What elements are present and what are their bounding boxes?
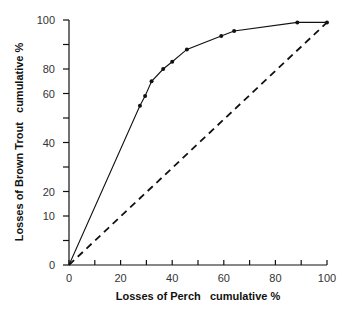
y-tick-label: 40 [43,137,55,149]
data-point-marker [138,104,142,108]
y-axis-ticks: 01020406080100 [37,14,69,271]
data-point-marker [232,29,236,33]
y-tick-label: 0 [49,259,55,271]
data-point-marker [219,34,223,38]
data-point-marker [170,60,174,64]
data-point-marker [161,67,165,71]
data-point-marker [185,47,189,51]
y-tick-label: 80 [43,63,55,75]
data-point-marker [150,79,154,83]
plot-area [69,20,329,265]
x-tick-label: 40 [166,272,178,284]
x-tick-label: 100 [318,272,336,284]
x-tick-label: 0 [66,272,72,284]
y-tick-label: 20 [43,186,55,198]
equality-dashed-line [69,22,327,265]
y-tick-label: 10 [43,210,55,222]
y-tick-label: 60 [43,88,55,100]
x-axis-title: Losses of Perch cumulative % [116,290,281,302]
data-point-marker [143,94,147,98]
x-tick-label: 60 [218,272,230,284]
x-tick-label: 20 [114,272,126,284]
data-point-marker [295,20,299,24]
x-tick-label: 80 [269,272,281,284]
y-tick-label: 100 [37,14,55,26]
cumulative-loss-chart: 01020406080100 020406080100 Losses of Pe… [0,0,350,318]
x-axis-ticks: 020406080100 [66,260,336,284]
y-axis-title: Losses of Brown Trout cumulative % [13,42,25,241]
